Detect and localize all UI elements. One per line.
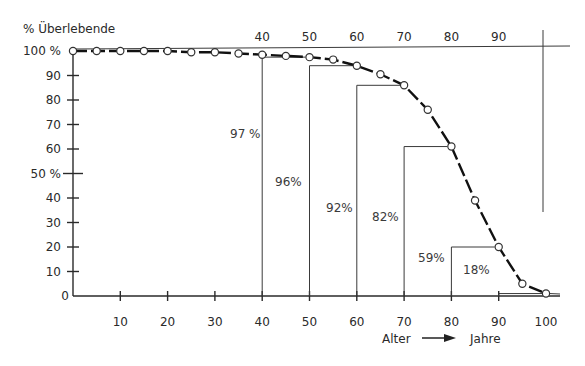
data-point-marker xyxy=(401,82,408,89)
top-x-tick-label: 60 xyxy=(349,30,364,44)
x-tick-label: 30 xyxy=(207,315,222,329)
y-tick-label: 70 xyxy=(46,118,61,132)
data-point-marker xyxy=(164,47,171,54)
data-point-marker xyxy=(93,47,100,54)
top-x-tick-label: 90 xyxy=(491,30,506,44)
x-tick-label: 40 xyxy=(255,315,270,329)
step-annotations: 97 %96%92%82%59%18% xyxy=(230,57,542,296)
data-point-marker xyxy=(495,243,502,250)
top-x-tick-label: 50 xyxy=(302,30,317,44)
step-percent-label: 97 % xyxy=(230,127,261,141)
x-tick-label: 100 xyxy=(535,315,558,329)
data-point-marker xyxy=(353,62,360,69)
y-tick-label: 100 % xyxy=(23,44,61,58)
step-percent-label: 96% xyxy=(275,175,302,189)
data-point-marker xyxy=(235,50,242,57)
data-point-marker xyxy=(542,290,549,297)
x-tick-label: 50 xyxy=(302,315,317,329)
y-tick-label: 0 xyxy=(61,289,69,303)
top-x-tick-label: 80 xyxy=(444,30,459,44)
data-point-marker xyxy=(282,52,289,59)
y-tick-label: 20 xyxy=(46,240,61,254)
data-point-marker xyxy=(330,56,337,63)
step-percent-label: 92% xyxy=(326,201,353,215)
x-tick-label: 20 xyxy=(160,315,175,329)
data-point-marker xyxy=(211,49,218,56)
data-point-marker xyxy=(471,197,478,204)
top-reference-line xyxy=(73,46,570,49)
y-tick-label: 10 xyxy=(46,265,61,279)
survival-curve xyxy=(69,47,560,297)
step-percent-label: 18% xyxy=(463,263,490,277)
x-axis-title-jahre: Jahre xyxy=(469,332,501,346)
arrow-icon xyxy=(422,334,456,342)
x-tick-label: 10 xyxy=(113,315,128,329)
y-tick-label: 60 xyxy=(46,142,61,156)
y-tick-label: 50 % xyxy=(31,167,62,181)
y-tick-label: 90 xyxy=(46,69,61,83)
x-tick-label: 90 xyxy=(491,315,506,329)
data-point-marker xyxy=(117,47,124,54)
step-percent-label: 82% xyxy=(372,210,399,224)
survival-chart: 01020304050 %60708090100 %10203040506070… xyxy=(0,0,585,366)
y-axis-title: % Überlebende xyxy=(23,20,115,36)
data-point-marker xyxy=(448,143,455,150)
y-tick-label: 30 xyxy=(46,216,61,230)
step-percent-label: 59% xyxy=(418,251,445,265)
data-point-marker xyxy=(69,47,76,54)
data-point-marker xyxy=(259,51,266,58)
data-point-marker xyxy=(519,280,526,287)
top-x-tick-label: 70 xyxy=(396,30,411,44)
data-point-marker xyxy=(188,49,195,56)
data-point-marker xyxy=(306,54,313,61)
top-x-tick-label: 40 xyxy=(255,30,270,44)
data-point-marker xyxy=(140,47,147,54)
y-tick-label: 40 xyxy=(46,191,61,205)
x-tick-label: 70 xyxy=(396,315,411,329)
x-axis-title-alter: Alter xyxy=(382,332,411,346)
data-point-marker xyxy=(377,71,384,78)
chart-canvas: 01020304050 %60708090100 %10203040506070… xyxy=(0,0,585,366)
x-tick-label: 60 xyxy=(349,315,364,329)
data-point-marker xyxy=(424,106,431,113)
y-tick-label: 80 xyxy=(46,93,61,107)
x-tick-label: 80 xyxy=(444,315,459,329)
